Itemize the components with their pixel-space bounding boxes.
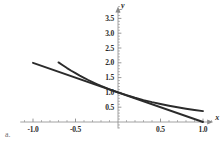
x-tick-label: -0.5 (67, 125, 85, 134)
x-axis-arrow (207, 119, 213, 124)
y-tick-label: 1.5 (94, 73, 114, 82)
y-tick-label: 3.0 (94, 29, 114, 38)
y-tick-label: 0.5 (94, 103, 114, 112)
x-axis-label: x (215, 113, 219, 122)
x-tick-label: 0.5 (152, 125, 170, 134)
series-exponential-curve (59, 62, 204, 111)
part-label: a. (5, 130, 11, 139)
y-tick-label: 2.5 (94, 44, 114, 53)
y-tick-label: 2.0 (94, 58, 114, 67)
y-tick-label: 1.0 (94, 88, 114, 97)
x-tick-label: 1.0 (194, 125, 212, 134)
y-tick-label: 3.5 (94, 14, 114, 23)
figure-container: a. -1.0-0.50.51.00.51.01.52.02.53.03.5xy (0, 0, 222, 150)
y-axis-label: y (121, 1, 125, 10)
x-tick-label: -1.0 (24, 125, 42, 134)
